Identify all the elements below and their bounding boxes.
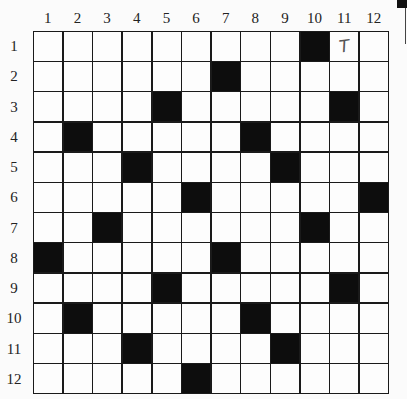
grid-cell[interactable] [182,62,210,91]
grid-cell[interactable] [34,62,62,91]
grid-cell[interactable] [360,364,388,393]
grid-cell[interactable] [93,243,121,272]
grid-cell[interactable] [241,364,269,393]
grid-cell[interactable] [360,334,388,363]
grid-cell[interactable] [212,364,240,393]
grid-cell[interactable] [271,364,299,393]
grid-cell[interactable] [330,153,358,182]
grid-cell[interactable] [241,62,269,91]
grid-cell[interactable] [212,92,240,121]
grid-cell[interactable] [241,92,269,121]
grid-cell[interactable] [301,92,329,121]
grid-cell[interactable] [241,334,269,363]
grid-cell[interactable] [93,32,121,61]
grid-cell[interactable] [123,213,151,242]
grid-cell[interactable] [360,153,388,182]
grid-cell[interactable] [93,153,121,182]
grid-cell[interactable] [330,183,358,212]
grid-cell[interactable] [64,334,92,363]
grid-cell[interactable] [271,243,299,272]
grid-cell[interactable] [271,92,299,121]
grid-cell[interactable] [34,213,62,242]
grid-cell[interactable] [153,153,181,182]
grid-cell[interactable] [330,243,358,272]
grid-cell[interactable] [182,32,210,61]
grid-cell[interactable] [241,213,269,242]
grid-cell[interactable] [34,304,62,333]
grid-cell[interactable] [182,213,210,242]
grid-cell[interactable] [93,304,121,333]
grid-cell[interactable] [64,183,92,212]
grid-cell[interactable] [64,32,92,61]
grid-cell[interactable] [123,62,151,91]
grid-cell[interactable] [153,334,181,363]
grid-cell[interactable] [64,213,92,242]
grid-cell[interactable] [93,274,121,303]
grid-cell[interactable] [93,123,121,152]
grid-cell[interactable] [301,364,329,393]
grid-cell[interactable]: T [330,32,358,61]
grid-cell[interactable] [330,364,358,393]
grid-cell[interactable] [182,153,210,182]
grid-cell[interactable] [93,92,121,121]
grid-cell[interactable] [301,334,329,363]
grid-cell[interactable] [34,123,62,152]
grid-cell[interactable] [212,213,240,242]
grid-cell[interactable] [212,153,240,182]
grid-cell[interactable] [123,32,151,61]
grid-cell[interactable] [301,62,329,91]
grid-cell[interactable] [271,123,299,152]
grid-cell[interactable] [212,274,240,303]
grid-cell[interactable] [182,92,210,121]
grid-cell[interactable] [123,274,151,303]
grid-cell[interactable] [153,213,181,242]
grid-cell[interactable] [241,32,269,61]
grid-cell[interactable] [93,364,121,393]
grid-cell[interactable] [182,334,210,363]
grid-cell[interactable] [360,62,388,91]
grid-cell[interactable] [64,243,92,272]
grid-cell[interactable] [153,123,181,152]
grid-cell[interactable] [153,32,181,61]
grid-cell[interactable] [212,183,240,212]
grid-cell[interactable] [301,123,329,152]
grid-cell[interactable] [271,213,299,242]
grid-cell[interactable] [182,243,210,272]
grid-cell[interactable] [271,304,299,333]
grid-cell[interactable] [271,274,299,303]
grid-cell[interactable] [360,32,388,61]
grid-cell[interactable] [34,32,62,61]
grid-cell[interactable] [330,304,358,333]
grid-cell[interactable] [34,153,62,182]
grid-cell[interactable] [271,32,299,61]
grid-cell[interactable] [330,62,358,91]
grid-cell[interactable] [241,153,269,182]
grid-cell[interactable] [64,364,92,393]
grid-cell[interactable] [153,62,181,91]
grid-cell[interactable] [330,334,358,363]
grid-cell[interactable] [301,243,329,272]
grid-cell[interactable] [93,62,121,91]
grid-cell[interactable] [212,32,240,61]
grid-cell[interactable] [93,334,121,363]
grid-cell[interactable] [34,183,62,212]
grid-cell[interactable] [182,123,210,152]
grid-cell[interactable] [153,183,181,212]
grid-cell[interactable] [241,274,269,303]
grid-cell[interactable] [301,153,329,182]
grid-cell[interactable] [212,334,240,363]
grid-cell[interactable] [34,364,62,393]
grid-cell[interactable] [301,304,329,333]
grid-cell[interactable] [212,304,240,333]
grid-cell[interactable] [360,92,388,121]
grid-cell[interactable] [301,274,329,303]
grid-cell[interactable] [330,123,358,152]
grid-cell[interactable] [123,123,151,152]
grid-cell[interactable] [360,123,388,152]
grid-cell[interactable] [64,92,92,121]
grid-cell[interactable] [182,304,210,333]
grid-cell[interactable] [360,243,388,272]
grid-cell[interactable] [212,123,240,152]
grid-cell[interactable] [153,243,181,272]
grid-cell[interactable] [123,364,151,393]
